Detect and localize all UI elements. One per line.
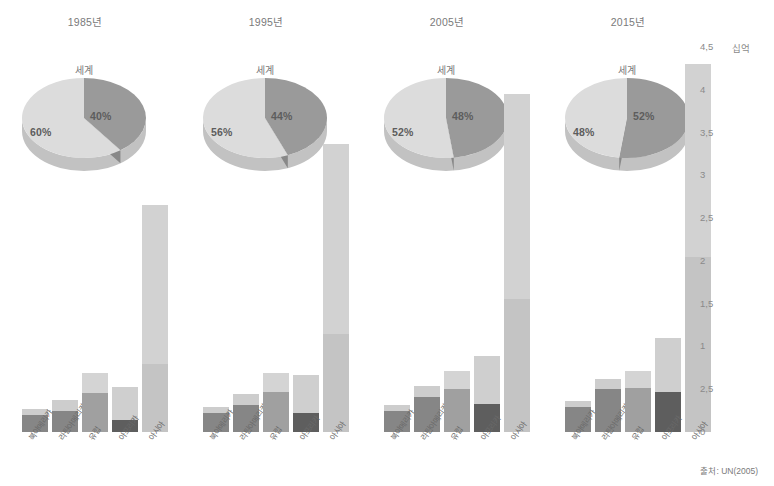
axis-tick-label: 4,5 bbox=[700, 41, 713, 52]
bar-segment-rural bbox=[504, 94, 530, 299]
axis-unit-label: 십억 bbox=[732, 41, 750, 55]
bar-plot: 북아메리카 라틴아메리카 유럽 아프리카 bbox=[543, 0, 713, 486]
bar-segment-rural bbox=[293, 375, 319, 414]
year-panel: 2005년 세계 48% 52% 북아메리카 bbox=[362, 0, 532, 486]
bar-segment-rural bbox=[414, 386, 440, 397]
bar-segment-rural bbox=[323, 144, 349, 334]
source-note: 출처: UN(2005) bbox=[700, 464, 758, 476]
axis-tick-label: 2 bbox=[700, 255, 705, 266]
axis-tick-label: 4 bbox=[700, 84, 705, 95]
stacked-bar bbox=[323, 144, 349, 432]
bar-segment-rural bbox=[233, 394, 259, 406]
stacked-bar bbox=[504, 94, 530, 432]
bar-segment-rural bbox=[625, 371, 651, 387]
bar-segment-rural bbox=[444, 371, 470, 389]
infographic-canvas: 1985년 세계 40% 60% 북아메리카 bbox=[0, 0, 774, 486]
stacked-bar bbox=[625, 371, 651, 432]
year-panel: 1985년 세계 40% 60% 북아메리카 bbox=[0, 0, 170, 486]
year-panel: 1995년 세계 44% 56% 북아메리카 bbox=[181, 0, 351, 486]
axis-tick-label: 2,5 bbox=[700, 383, 713, 394]
axis-tick-label: 3 bbox=[700, 169, 705, 180]
axis-tick-label: 2,5 bbox=[700, 212, 713, 223]
bar-plot: 북아메리카 라틴아메리카 유럽 아프리카 bbox=[0, 0, 170, 486]
axis-tick-label: 0 bbox=[700, 426, 705, 437]
bar-segment-rural bbox=[82, 373, 108, 393]
bar-plot: 북아메리카 라틴아메리카 유럽 아프리카 bbox=[181, 0, 351, 486]
bar-segment-rural bbox=[595, 379, 621, 389]
bar-segment-urban bbox=[504, 299, 530, 432]
bar-segment-rural bbox=[565, 401, 591, 407]
bar-segment-rural bbox=[655, 338, 681, 392]
axis-tick-label: 3,5 bbox=[700, 127, 713, 138]
stacked-bar bbox=[82, 373, 108, 432]
bar-segment-rural bbox=[474, 356, 500, 404]
bar-plot: 북아메리카 라틴아메리카 유럽 아프리카 bbox=[362, 0, 532, 486]
axis-tick-label: 1,5 bbox=[700, 298, 713, 309]
bar-segment-rural bbox=[263, 373, 289, 392]
stacked-bar bbox=[444, 371, 470, 432]
stacked-bar bbox=[263, 373, 289, 432]
axis-tick-label: 1 bbox=[700, 340, 705, 351]
bar-segment-rural bbox=[142, 205, 168, 363]
year-panel: 2015년 세계 52% 48% 북아메리카 bbox=[543, 0, 713, 486]
stacked-bar bbox=[142, 205, 168, 432]
value-axis: 4,543,532,521,512,50십억 bbox=[700, 0, 774, 486]
bar-segment-urban bbox=[323, 334, 349, 432]
